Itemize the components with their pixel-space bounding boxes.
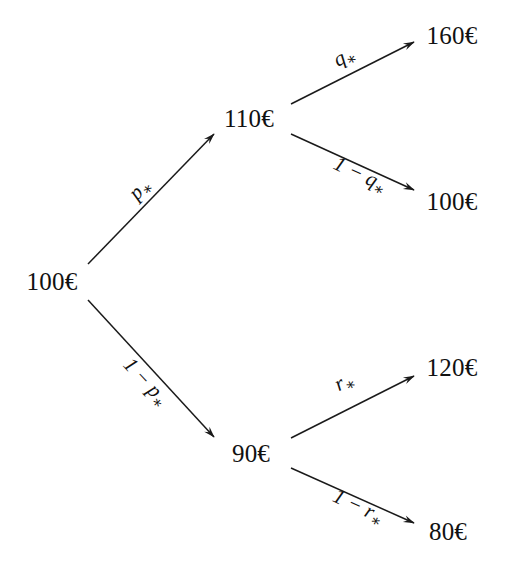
binomial-tree-diagram: 100€110€90€160€100€120€80€ p∗1 − p∗q∗1 −… [0, 0, 505, 575]
tree-node-up: 110€ [224, 106, 274, 131]
tree-node-ud: 100€ [427, 189, 478, 214]
tree-edge-root-up [88, 134, 214, 264]
tree-node-root: 100€ [27, 269, 78, 294]
tree-node-down: 90€ [232, 441, 270, 466]
tree-node-dd: 80€ [429, 519, 467, 544]
tree-node-du: 120€ [427, 355, 478, 380]
tree-node-uu: 160€ [427, 23, 478, 48]
